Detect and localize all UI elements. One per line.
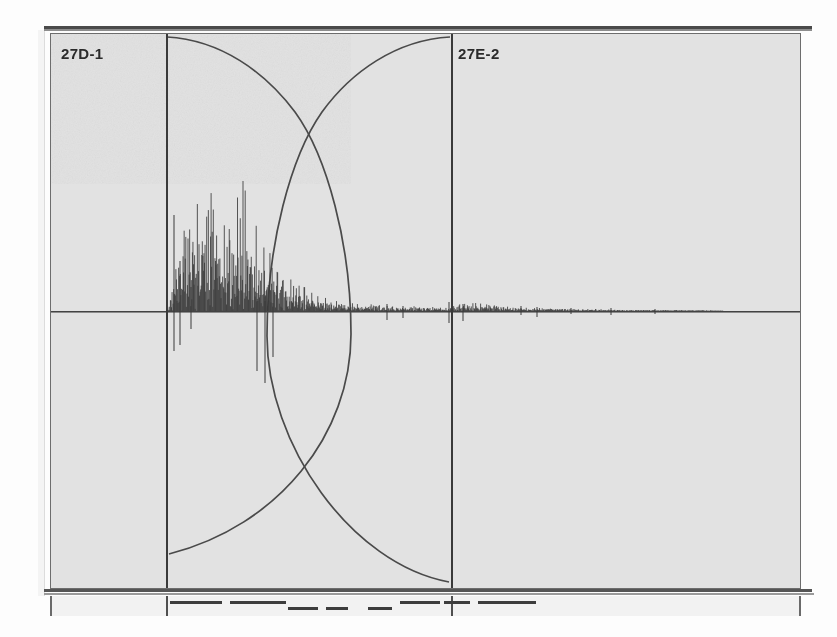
record-panel[interactable]: 27D-1 27E-2 <box>50 33 801 589</box>
timing-dash <box>400 601 440 604</box>
timing-tick <box>451 596 453 616</box>
bottom-rule-shadow <box>44 593 814 595</box>
timing-dash <box>444 601 470 604</box>
seismogram-scan: 27D-1 27E-2 <box>0 0 837 637</box>
timing-dash <box>478 601 536 604</box>
trace-label-layer: 27D-1 27E-2 <box>51 34 801 589</box>
paper-left-edge <box>38 30 45 596</box>
bottom-rule-line <box>44 589 812 592</box>
trace-label-right: 27E-2 <box>458 45 500 62</box>
timing-tick <box>166 596 168 616</box>
timing-scale-strip[interactable] <box>50 596 801 616</box>
timing-dash <box>170 601 222 604</box>
trace-label-left: 27D-1 <box>61 45 103 62</box>
timing-dash <box>326 607 348 610</box>
timing-dash <box>288 607 318 610</box>
timing-dash <box>230 601 286 604</box>
top-rule-shadow <box>44 29 812 31</box>
timing-dash <box>368 607 392 610</box>
